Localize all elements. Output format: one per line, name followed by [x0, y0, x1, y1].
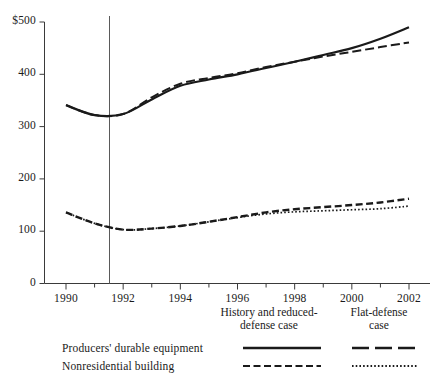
y-tick-label: $500	[0, 14, 36, 26]
legend-swatch-nrb-history	[243, 363, 321, 369]
legend-row-label-producers-durable-equipment: Producers' durable equipment	[62, 342, 203, 354]
series-line-1	[66, 27, 409, 116]
legend-swatch-pde-flat-defense	[352, 345, 418, 351]
data-series-group	[66, 27, 409, 230]
axes	[40, 16, 431, 290]
y-tick-marks	[40, 22, 45, 284]
series-line-3	[66, 199, 409, 230]
y-tick-label: 400	[0, 66, 36, 78]
chart-figure: $5004003002001000 1990199219941996199820…	[0, 0, 448, 386]
series-line-2	[66, 42, 409, 116]
chart-legend: History and reduced- defense case Flat-d…	[0, 302, 448, 386]
legend-col2-line2: case	[369, 319, 389, 331]
x-tick-marks	[66, 284, 409, 290]
legend-col1-line2: defense case	[240, 319, 298, 331]
legend-swatch-nrb-flat-defense	[352, 363, 418, 369]
legend-column-header-flat-defense: Flat-defense case	[336, 306, 422, 332]
legend-swatch-pde-history	[243, 345, 321, 351]
y-tick-label: 0	[0, 276, 36, 288]
legend-row-label-nonresidential-building: Nonresidential building	[62, 360, 174, 372]
y-tick-label: 200	[0, 171, 36, 183]
y-tick-label: 100	[0, 223, 36, 235]
series-line-4	[66, 206, 409, 230]
legend-col2-line1: Flat-defense	[351, 306, 408, 318]
legend-column-header-history: History and reduced- defense case	[214, 306, 324, 332]
legend-col1-line1: History and reduced-	[220, 306, 317, 318]
y-tick-label: 300	[0, 119, 36, 131]
